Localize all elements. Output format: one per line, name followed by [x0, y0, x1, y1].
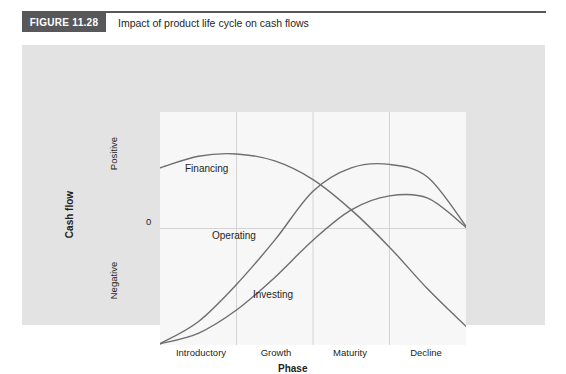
- chart-curves-svg: [160, 112, 466, 345]
- y-tick-label-positive: Positive: [108, 124, 119, 184]
- y-axis-title: Cash flow: [64, 155, 75, 275]
- series-label-operating: Operating: [212, 230, 256, 241]
- x-tick-label-maturity: Maturity: [312, 347, 388, 358]
- figure-header: FIGURE 11.28 Impact of product life cycl…: [22, 11, 546, 35]
- figure-number-badge: FIGURE 11.28: [22, 13, 106, 32]
- y-tick-label-zero: 0: [146, 216, 151, 227]
- figure-caption: Impact of product life cycle on cash flo…: [118, 13, 309, 32]
- y-tick-label-negative: Negative: [108, 248, 119, 314]
- figure-panel: Cash flow Positive 0 Negative Introducto…: [22, 45, 545, 325]
- gridlines: [160, 112, 466, 345]
- series-label-investing: Investing: [253, 289, 293, 300]
- x-axis-title: Phase: [278, 363, 307, 374]
- series-label-financing: Financing: [185, 163, 228, 174]
- x-tick-label-decline: Decline: [388, 347, 464, 358]
- x-tick-label-introductory: Introductory: [162, 347, 240, 358]
- chart-plot-area: [160, 112, 466, 345]
- x-tick-label-growth: Growth: [240, 347, 312, 358]
